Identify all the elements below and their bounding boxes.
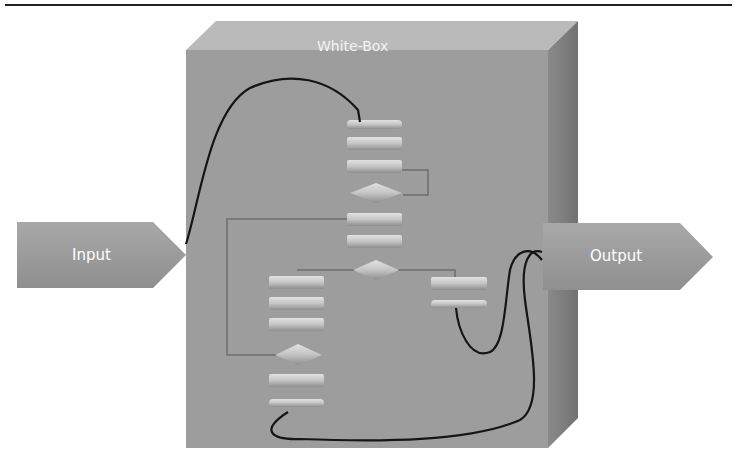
box-front-face <box>186 50 548 448</box>
input-label: Input <box>72 246 111 264</box>
output-label: Output <box>590 247 642 265</box>
white-box-diagram <box>0 0 735 467</box>
box-title: White-Box <box>317 38 388 54</box>
